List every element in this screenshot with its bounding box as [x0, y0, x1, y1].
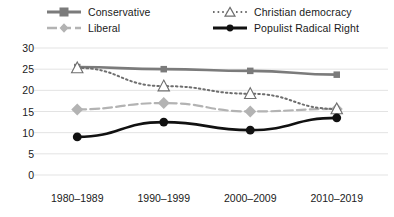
legend-item-christian-democracy: Christian democracy — [212, 5, 352, 19]
legend-label-christian-democracy: Christian democracy — [254, 5, 352, 19]
series-line — [77, 67, 337, 75]
y-tick-label: 5 — [8, 148, 34, 160]
series-layer — [71, 62, 343, 141]
data-point-marker — [247, 68, 254, 75]
series-liberal — [71, 97, 343, 117]
chart-legend: Conservative Liberal Christian democracy — [0, 4, 394, 38]
legend-item-conservative: Conservative — [46, 5, 150, 19]
y-tick-label: 0 — [8, 169, 34, 181]
data-point-marker — [246, 126, 255, 135]
circle-marker-icon — [212, 21, 248, 35]
triangle-marker-icon — [212, 5, 248, 19]
data-point-marker — [73, 133, 82, 142]
y-axis-tick-labels: 051015202530 — [0, 38, 34, 217]
data-point-marker — [158, 97, 170, 109]
x-tick-label: 1980–1989 — [51, 192, 104, 204]
y-tick-label: 15 — [8, 106, 34, 118]
square-marker-icon — [46, 5, 82, 19]
legend-label-liberal: Liberal — [88, 21, 120, 35]
data-point-marker — [334, 71, 341, 78]
diamond-marker-icon — [46, 21, 82, 35]
x-tick-label: 2000–2009 — [224, 192, 277, 204]
y-tick-label: 20 — [8, 84, 34, 96]
legend-label-conservative: Conservative — [88, 5, 150, 19]
y-tick-label: 30 — [8, 42, 34, 54]
legend-label-populist-radical-right: Populist Radical Right — [254, 21, 359, 35]
data-point-marker — [159, 118, 168, 127]
legend-item-populist-radical-right: Populist Radical Right — [212, 21, 359, 35]
x-tick-label: 2010–2019 — [310, 192, 363, 204]
plot-area: 051015202530 1980–19891990–19992000–2009… — [0, 38, 394, 217]
data-point-marker — [332, 113, 341, 122]
y-tick-label: 25 — [8, 63, 34, 75]
plot-canvas — [0, 38, 394, 217]
series-line — [77, 103, 337, 111]
series-conservative — [74, 64, 340, 78]
data-point-marker — [244, 106, 256, 118]
series-line — [77, 118, 337, 137]
data-point-marker — [161, 66, 168, 73]
line-chart: Conservative Liberal Christian democracy — [0, 0, 394, 217]
y-tick-label: 10 — [8, 127, 34, 139]
data-point-marker — [71, 103, 83, 115]
x-tick-label: 1990–1999 — [137, 192, 190, 204]
series-populist-radical-right — [73, 113, 341, 141]
legend-item-liberal: Liberal — [46, 21, 120, 35]
